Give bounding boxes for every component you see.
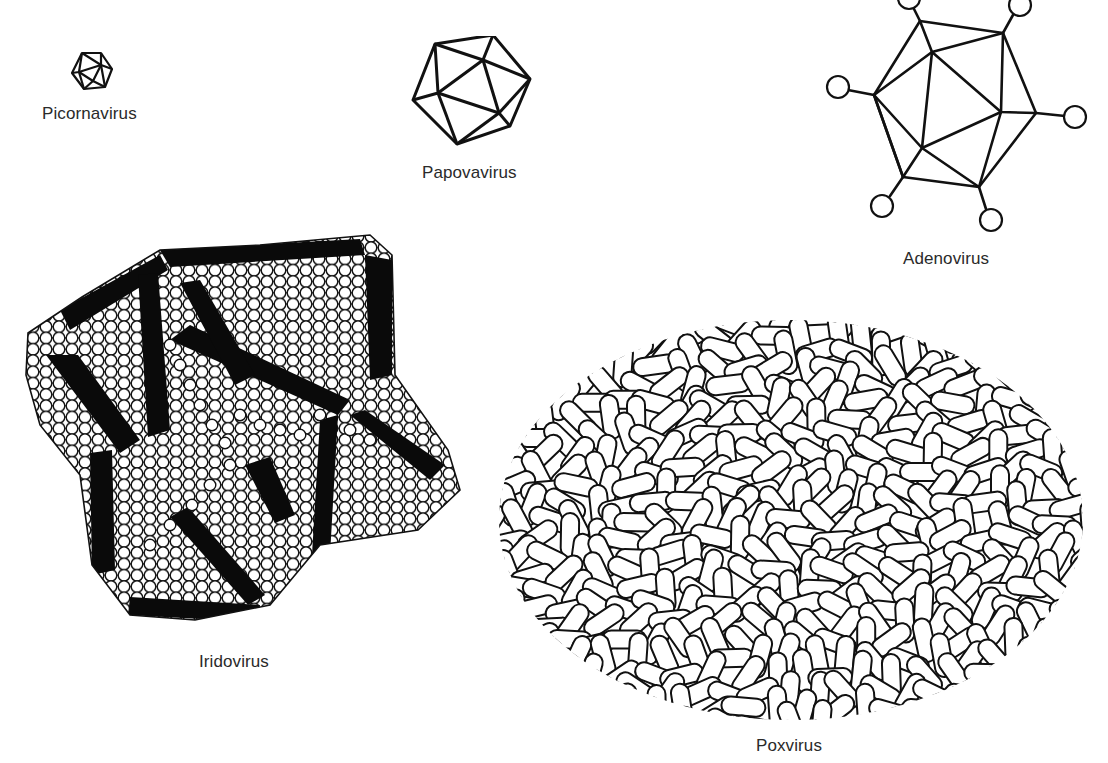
- iridovirus-label: Iridovirus: [199, 652, 269, 672]
- picornavirus-illustration: [68, 50, 118, 94]
- cropped-caption-strip: [0, 0, 420, 4]
- adenovirus-illustration: [820, 0, 1108, 240]
- adenovirus-label: Adenovirus: [903, 249, 989, 269]
- poxvirus-illustration: [495, 318, 1090, 723]
- papovavirus-illustration: [408, 36, 538, 164]
- iridovirus-illustration: [20, 225, 470, 635]
- picornavirus-label: Picornavirus: [42, 104, 137, 124]
- papovavirus-label: Papovavirus: [422, 163, 517, 183]
- poxvirus-label: Poxvirus: [756, 736, 822, 756]
